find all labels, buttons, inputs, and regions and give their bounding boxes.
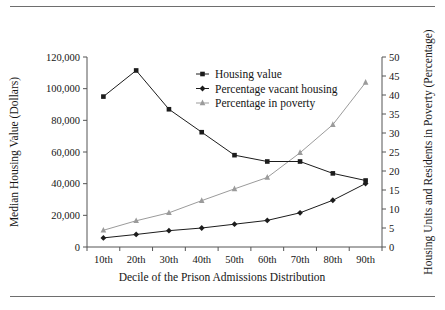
y-axis-tick-label-left: 20,000	[51, 210, 80, 221]
data-point-marker	[264, 174, 270, 180]
y-axis-tick-label-right: 0	[389, 242, 394, 253]
y-axis-tick-label-right: 25	[389, 147, 400, 158]
data-point-marker	[199, 130, 204, 135]
y-axis-tick-label-left: 40,000	[51, 178, 80, 189]
data-point-marker	[100, 235, 106, 241]
data-point-marker	[200, 86, 206, 92]
x-axis-tick-label: 60th	[258, 254, 277, 265]
x-axis-tick-label: 20th	[127, 254, 146, 265]
x-axis-tick-label: 70th	[291, 254, 310, 265]
data-point-marker	[363, 79, 369, 85]
y-axis-tick-label-left: 100,000	[46, 83, 80, 94]
legend-label: Percentage in poverty	[215, 97, 316, 110]
y-axis-tick-label-right: 40	[389, 90, 400, 101]
data-point-marker	[331, 171, 336, 176]
x-axis-tick-label: 50th	[225, 254, 244, 265]
y-axis-tick-label-right: 20	[389, 166, 400, 177]
y-axis-title-right: Housing Units and Residents in Poverty (…	[422, 29, 435, 274]
data-point-marker	[232, 153, 237, 158]
data-point-marker	[232, 221, 238, 227]
y-axis-tick-label-right: 35	[389, 109, 400, 120]
legend-entry: Percentage vacant housing	[196, 83, 338, 96]
line-chart: 020,00040,00060,00080,000100,000120,0000…	[0, 0, 445, 310]
y-axis-tick-label-left: 0	[75, 242, 80, 253]
x-axis-tick-label: 30th	[160, 254, 179, 265]
y-axis-tick-label-left: 60,000	[51, 147, 80, 158]
data-point-marker	[264, 218, 270, 224]
y-axis-tick-label-right: 50	[389, 52, 400, 63]
y-axis-tick-label-left: 120,000	[46, 52, 80, 63]
data-point-marker	[167, 107, 172, 112]
figure-container: 020,00040,00060,00080,000100,000120,0000…	[0, 0, 445, 310]
data-point-marker	[330, 197, 336, 203]
data-point-marker	[298, 159, 303, 164]
x-axis-tick-label: 40th	[192, 254, 211, 265]
legend-label: Housing value	[215, 68, 282, 81]
y-axis-tick-label-right: 15	[389, 185, 400, 196]
data-point-marker	[200, 72, 205, 77]
data-point-marker	[297, 210, 303, 216]
y-axis-tick-label-left: 80,000	[51, 115, 80, 126]
x-axis-tick-label: 80th	[323, 254, 342, 265]
data-point-marker	[166, 228, 172, 234]
x-axis-tick-label: 90th	[356, 254, 375, 265]
legend-entry: Percentage in poverty	[196, 97, 316, 110]
y-axis-tick-label-right: 5	[389, 223, 394, 234]
y-axis-tick-label-right: 45	[389, 71, 400, 82]
legend-label: Percentage vacant housing	[215, 83, 338, 96]
data-point-marker	[199, 225, 205, 231]
data-point-marker	[297, 149, 303, 155]
data-point-marker	[265, 159, 270, 164]
data-point-marker	[101, 94, 106, 99]
data-point-marker	[200, 100, 206, 106]
x-axis-tick-label: 10th	[94, 254, 113, 265]
legend-entry: Housing value	[196, 68, 282, 81]
data-point-marker	[133, 232, 139, 238]
x-axis-title: Decile of the Prison Admissions Distribu…	[119, 271, 326, 283]
y-axis-tick-label-right: 30	[389, 128, 400, 139]
y-axis-tick-label-right: 10	[389, 204, 400, 215]
series-line	[103, 184, 365, 238]
y-axis-title-left: Median Housing Value (Dollars)	[8, 77, 21, 227]
legend-layer: Housing valuePercentage vacant housingPe…	[196, 68, 338, 110]
data-point-marker	[134, 68, 139, 73]
